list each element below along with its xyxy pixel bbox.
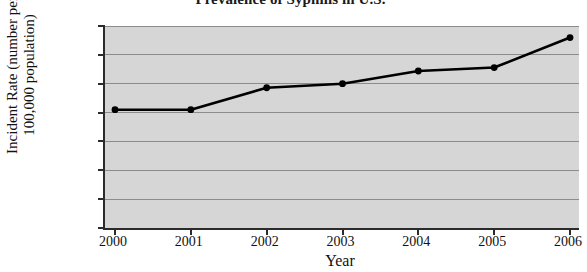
data-point bbox=[567, 34, 574, 41]
x-axis-tick-label: 2003 bbox=[306, 234, 376, 249]
series-markers bbox=[112, 34, 574, 113]
x-axis-tick-label: 2006 bbox=[533, 234, 587, 249]
y-axis-tick bbox=[98, 112, 105, 114]
y-axis-label-line-1: Incident Rate (number per bbox=[4, 0, 21, 185]
chart-title: Prevalence of Syphilis in U.S. bbox=[0, 0, 581, 8]
plot-area bbox=[103, 26, 579, 230]
data-point bbox=[187, 106, 194, 113]
plot-inner bbox=[105, 26, 579, 228]
y-axis-label-line-2: 100,000 population) bbox=[21, 0, 38, 185]
y-axis-tick bbox=[98, 25, 105, 27]
y-axis-tick bbox=[98, 198, 105, 200]
y-axis-tick bbox=[98, 54, 105, 56]
data-point bbox=[112, 106, 119, 113]
y-axis-label: Incident Rate (number per 100,000 popula… bbox=[4, 0, 44, 185]
y-axis-tick bbox=[98, 227, 105, 229]
x-axis-tick-label: 2001 bbox=[154, 234, 224, 249]
data-point bbox=[491, 64, 498, 71]
x-axis-tick-label: 2000 bbox=[78, 234, 148, 249]
series-polyline bbox=[115, 38, 570, 110]
y-axis-tick bbox=[98, 83, 105, 85]
y-axis-tick bbox=[98, 169, 105, 171]
x-axis-tick-label: 2004 bbox=[381, 234, 451, 249]
y-axis-tick bbox=[98, 140, 105, 142]
data-point bbox=[415, 68, 422, 75]
x-axis-label: Year bbox=[103, 252, 577, 269]
data-point bbox=[263, 84, 270, 91]
series-line bbox=[105, 26, 579, 228]
x-axis-tick-label: 2002 bbox=[230, 234, 300, 249]
x-axis-tick-label: 2005 bbox=[457, 234, 527, 249]
data-point bbox=[339, 80, 346, 87]
